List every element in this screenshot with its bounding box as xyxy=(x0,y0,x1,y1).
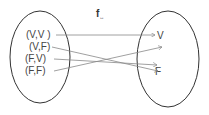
function-title: f↔ xyxy=(96,8,104,20)
domain-element-vf: (V,F) xyxy=(29,41,50,52)
domain-element-ff: (F,F) xyxy=(25,65,46,76)
codomain-ellipse xyxy=(137,11,199,107)
arrow-vf-to-f xyxy=(52,47,158,71)
domain-element-fv: (F,V) xyxy=(25,53,46,64)
codomain-element-f: F xyxy=(155,66,161,77)
domain-element-vv: (V,V ) xyxy=(26,29,51,40)
function-mapping-diagram: f↔ (V,V ) (V,F) (F,V) (F,F) V F xyxy=(0,0,209,115)
codomain-element-v: V xyxy=(157,30,164,41)
